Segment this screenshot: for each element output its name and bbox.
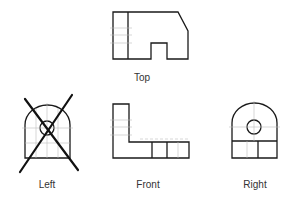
left-view: Left bbox=[20, 95, 78, 190]
top-view: Top bbox=[110, 12, 188, 83]
front-view: Front bbox=[110, 104, 190, 190]
right-view: Right bbox=[229, 101, 280, 190]
top-view-label: Top bbox=[134, 72, 151, 83]
top-view-outline bbox=[113, 12, 188, 59]
cross-out-line bbox=[20, 95, 72, 172]
projection-diagram: Top Left Front Right bbox=[0, 0, 291, 197]
front-view-label: Front bbox=[136, 179, 160, 190]
left-view-label: Left bbox=[39, 179, 56, 190]
right-view-label: Right bbox=[243, 179, 267, 190]
right-view-outline bbox=[232, 103, 277, 158]
front-view-outline bbox=[113, 104, 189, 158]
